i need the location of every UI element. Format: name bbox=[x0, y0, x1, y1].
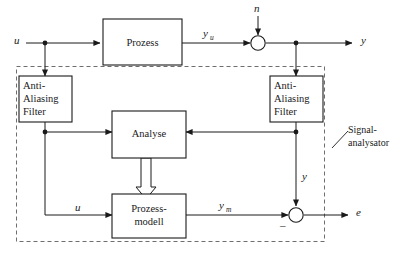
label-y-feedback: y bbox=[301, 170, 307, 182]
annotation-signalanalysator-line1: Signal- bbox=[348, 124, 377, 135]
block-aaf-right-line3: Filter bbox=[274, 106, 297, 117]
block-aaf-right-line2: Aliasing bbox=[274, 93, 310, 104]
label-u-model: u bbox=[75, 201, 81, 213]
label-n: n bbox=[254, 2, 260, 14]
block-diagram-svg: Prozess Anti- Aliasing Filter Anti- Alia… bbox=[0, 0, 402, 258]
label-y-output: y bbox=[360, 34, 366, 46]
diagram-canvas: Prozess Anti- Aliasing Filter Anti- Alia… bbox=[0, 0, 402, 258]
block-analyse-label: Analyse bbox=[132, 128, 167, 139]
block-prozessmodell-line2: modell bbox=[134, 216, 163, 227]
label-u-input: u bbox=[14, 34, 20, 46]
summing-junction-error[interactable] bbox=[289, 208, 303, 222]
block-aaf-left-line3: Filter bbox=[23, 106, 46, 117]
label-minus-sign: _ bbox=[279, 215, 286, 227]
block-prozess-label: Prozess bbox=[126, 37, 158, 48]
leader-line-signalanalysator bbox=[332, 131, 348, 148]
label-yu-base: y bbox=[202, 27, 208, 39]
block-aaf-right-line1: Anti- bbox=[274, 80, 297, 91]
label-e-output: e bbox=[356, 206, 361, 218]
block-prozessmodell-line1: Prozess- bbox=[131, 203, 167, 214]
annotation-signalanalysator-line2: analysator bbox=[348, 137, 390, 148]
hollow-arrow-analyse-to-model bbox=[136, 158, 156, 199]
label-ym-base: y bbox=[218, 199, 224, 211]
junction-u bbox=[43, 41, 48, 46]
block-aaf-left-line1: Anti- bbox=[23, 80, 46, 91]
summing-junction-noise[interactable] bbox=[251, 36, 265, 50]
label-yu-sub: u bbox=[210, 33, 214, 42]
block-aaf-left-line2: Aliasing bbox=[23, 93, 59, 104]
label-ym-sub: m bbox=[226, 205, 232, 214]
